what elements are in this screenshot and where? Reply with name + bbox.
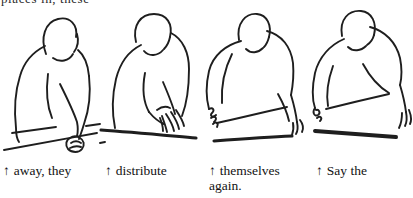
cropped-text: places in, these [1,0,161,6]
caption-1-text: away, they [14,163,72,178]
gesture-sketch-3 [198,10,306,160]
caption-4: ↑Say the [316,163,406,178]
up-arrow-icon: ↑ [3,163,10,178]
caption-3: ↑themselves again. [209,163,289,193]
caption-1: ↑away, they [3,163,98,178]
caption-2: ↑distribute [105,163,200,178]
gesture-sketch-4 [303,8,411,158]
caption-3-text: themselves again. [209,163,280,193]
gesture-sketch-1 [0,12,100,162]
gesture-sketch-2 [100,10,200,160]
up-arrow-icon: ↑ [316,163,323,178]
caption-4-text: Say the [327,163,367,178]
caption-2-text: distribute [116,163,167,178]
figure-panel-strip: places in, these [0,0,413,198]
up-arrow-icon: ↑ [105,163,112,178]
cropped-text-fragment: places in, these [1,0,161,6]
up-arrow-icon: ↑ [209,163,216,178]
